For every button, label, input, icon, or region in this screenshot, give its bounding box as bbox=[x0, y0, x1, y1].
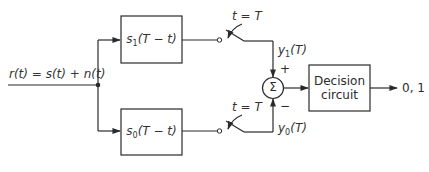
y1-argument: (T) bbox=[290, 43, 307, 57]
switch-1-contact bbox=[217, 38, 221, 42]
sample-y1-label: y1(T) bbox=[278, 44, 307, 59]
switch-0-contact bbox=[217, 129, 221, 133]
filter-0-argument: (T − t) bbox=[138, 124, 177, 138]
filter-1-argument: (T − t) bbox=[138, 32, 177, 46]
y0-argument: (T) bbox=[290, 121, 307, 135]
switch-0-label: t = T bbox=[232, 101, 262, 113]
output-label: 0, 1 bbox=[402, 82, 425, 94]
minus-sign: − bbox=[280, 100, 290, 112]
sigma-symbol: Σ bbox=[266, 81, 280, 93]
decision-line-2: circuit bbox=[321, 88, 358, 102]
matched-filter-0-label: s0(T − t) bbox=[121, 109, 182, 155]
matched-filter-1-label: s1(T − t) bbox=[121, 16, 182, 63]
decision-circuit-label: Decision circuit bbox=[309, 65, 370, 111]
sample-y0-label: y0(T) bbox=[278, 122, 307, 137]
plus-sign: + bbox=[280, 63, 290, 75]
input-signal-label: r(t) = s(t) + n(t) bbox=[9, 68, 105, 80]
decision-line-1: Decision bbox=[314, 74, 365, 88]
switch-1-label: t = T bbox=[232, 10, 262, 22]
